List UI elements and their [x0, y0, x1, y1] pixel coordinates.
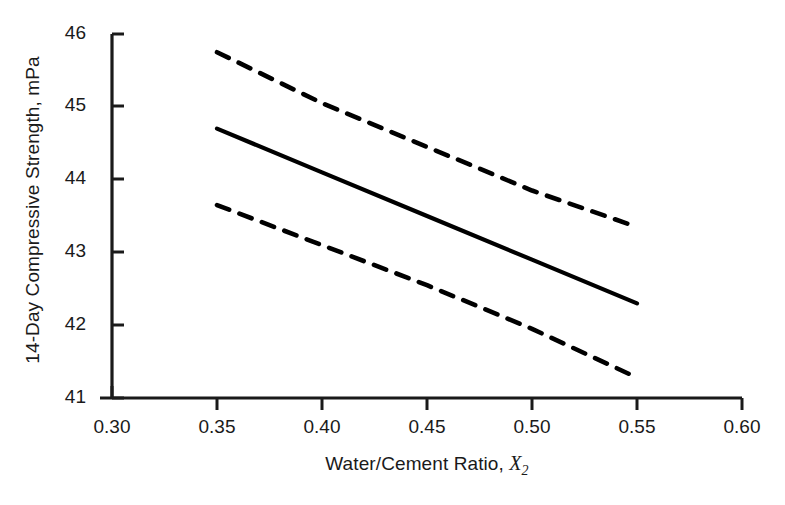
- y-axis-title: 14-Day Compressive Strength, mPa: [22, 10, 44, 410]
- x-tick-label-060: 0.60: [702, 416, 782, 438]
- chart-figure: 46 45 44 43 42 41 0.30 0.35 0.40 0.45 0.…: [0, 0, 785, 505]
- x-tick-label-035: 0.35: [177, 416, 257, 438]
- x-tick-label-045: 0.45: [387, 416, 467, 438]
- x-tick-label-050: 0.50: [492, 416, 572, 438]
- x-axis-variable-subscript: 2: [522, 463, 529, 478]
- series-line-0: [217, 52, 637, 227]
- x-axis-variable: X: [509, 452, 521, 474]
- y-tick-label-45: 45: [40, 94, 86, 116]
- series-line-2: [217, 205, 637, 378]
- y-tick-label-41: 41: [40, 386, 86, 408]
- x-axis-title: Water/Cement Ratio, X2: [112, 452, 742, 479]
- x-axis-title-text: Water/Cement Ratio,: [325, 453, 509, 474]
- x-tick-label-055: 0.55: [597, 416, 677, 438]
- chart-series-layer: [217, 52, 637, 377]
- y-tick-label-46: 46: [40, 22, 86, 44]
- x-tick-label-030: 0.30: [72, 416, 152, 438]
- y-tick-label-44: 44: [40, 167, 86, 189]
- y-tick-label-43: 43: [40, 240, 86, 262]
- x-tick-label-040: 0.40: [282, 416, 362, 438]
- y-tick-label-42: 42: [40, 313, 86, 335]
- series-line-1: [217, 129, 637, 304]
